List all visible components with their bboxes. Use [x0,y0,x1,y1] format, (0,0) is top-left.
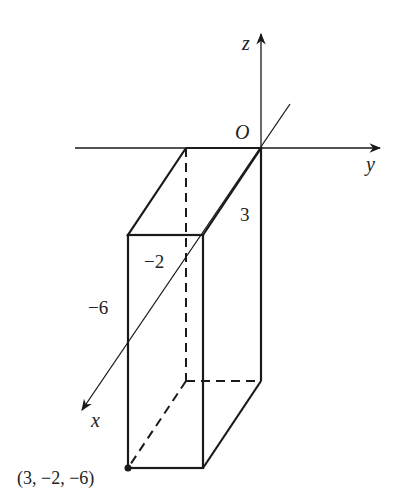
z-extent-label: −6 [88,297,108,318]
coordinate-box-diagram: z O y x 3 −2 −6 (3, −2, −6) [0,0,406,493]
point-label: (3, −2, −6) [17,468,94,489]
z-axis-label: z [241,32,250,54]
y-axis-label: y [364,153,375,176]
x-axis-label: x [90,409,100,431]
box-solid-edges [128,148,261,468]
point-marker [125,465,132,472]
height-label: 3 [240,204,250,225]
box-hidden-edges [128,148,261,468]
y-extent-label: −2 [144,251,164,272]
origin-label: O [235,121,249,143]
